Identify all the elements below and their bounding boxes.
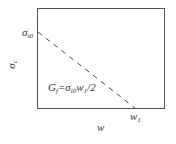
eq-w: w — [76, 81, 83, 93]
w-symbol: w — [97, 121, 104, 133]
peak-subscript: t0 — [27, 32, 32, 40]
peak-stress-label: σt0 — [22, 27, 33, 40]
fracture-energy-equation: Gf=σt0w1/2 — [48, 82, 96, 95]
diagram-canvas — [0, 0, 176, 144]
eq-lhs: G — [48, 81, 56, 93]
eq-tail: /2 — [87, 81, 96, 93]
x-axis-label: w — [97, 122, 104, 133]
y-subscript: c — [11, 60, 19, 63]
x-end-subscript: 1 — [137, 116, 141, 124]
sigma-symbol: σ — [5, 63, 17, 68]
y-axis-label: σc — [6, 60, 19, 69]
softening-line — [38, 32, 135, 108]
crack-width-end-label: w1 — [130, 111, 141, 124]
